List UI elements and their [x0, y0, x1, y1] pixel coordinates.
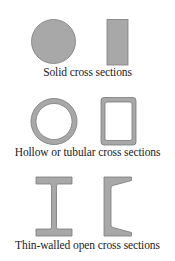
hollow-rectangle-shape — [101, 98, 136, 146]
hollow-circle-shape — [31, 99, 77, 145]
solid-sections-caption: Solid cross sections — [0, 66, 175, 78]
solid-rectangle-shape — [107, 20, 128, 66]
channel-section-shape — [104, 177, 132, 236]
open-sections-group — [36, 177, 132, 236]
solid-sections-group — [32, 20, 129, 66]
solid-circle-shape — [32, 20, 76, 64]
hollow-sections-caption: Hollow or tubular cross sections — [0, 146, 175, 158]
hollow-sections-group — [31, 98, 136, 146]
thin-walled-sections-caption: Thin-walled open cross sections — [0, 239, 175, 251]
cross-sections-diagram — [0, 0, 175, 261]
i-beam-shape — [36, 177, 72, 236]
